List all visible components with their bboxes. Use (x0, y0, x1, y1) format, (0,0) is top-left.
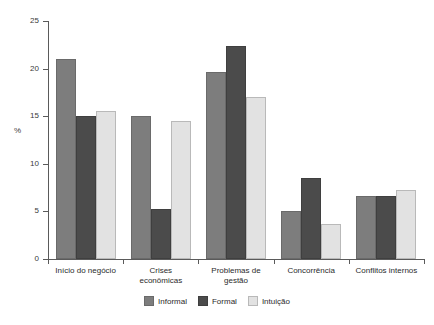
legend-label-formal: Formal (212, 297, 237, 306)
bar-formal (151, 209, 171, 259)
bar-intuicao (171, 121, 191, 259)
bar-informal (56, 59, 76, 259)
bar-formal (301, 178, 321, 259)
bar-formal (376, 196, 396, 259)
x-axis-line (48, 259, 424, 260)
y-axis-tick (43, 116, 49, 117)
legend-label-informal: Informal (158, 297, 187, 306)
y-axis-tick-label: 10 (9, 160, 39, 168)
y-axis-line (48, 21, 49, 259)
y-axis-tick (43, 164, 49, 165)
y-axis-tick-label: 0 (9, 255, 39, 263)
bar-intuicao (321, 224, 341, 259)
bar-informal (131, 116, 151, 259)
y-axis-tick-label: 5 (9, 207, 39, 215)
x-axis-tick (123, 259, 124, 264)
y-axis-unit-label: % (14, 126, 21, 135)
x-axis-tick (198, 259, 199, 264)
legend-swatch-intuicao (248, 296, 258, 306)
bar-formal (226, 46, 246, 259)
bar-formal (76, 116, 96, 259)
y-axis-tick (43, 69, 49, 70)
chart-legend: InformalFormalIntuição (0, 296, 434, 306)
y-axis-tick-label: 25 (9, 17, 39, 25)
legend-label-intuicao: Intuição (262, 297, 290, 306)
category-label-line: gestão (188, 276, 284, 286)
legend-swatch-formal (198, 296, 208, 306)
bar-informal (356, 196, 376, 259)
x-axis-tick (48, 259, 49, 264)
legend-swatch-informal (144, 296, 154, 306)
category-label-line: Conflitos internos (338, 266, 434, 276)
bar-informal (206, 72, 226, 259)
x-axis-category-label: Conflitos internos (338, 266, 434, 276)
bar-intuicao (396, 190, 416, 259)
y-axis-tick-label: 15 (9, 112, 39, 120)
legend-item-formal: Formal (198, 296, 237, 306)
x-axis-tick (424, 259, 425, 264)
y-axis-tick-label: 20 (9, 65, 39, 73)
bar-chart: % 0510152025 Início do negócioCrisesecon… (0, 0, 434, 325)
legend-item-informal: Informal (144, 296, 187, 306)
y-axis-tick (43, 21, 49, 22)
x-axis-tick (349, 259, 350, 264)
legend-item-intuicao: Intuição (248, 296, 290, 306)
bar-intuicao (246, 97, 266, 259)
x-axis-tick (274, 259, 275, 264)
bar-informal (281, 211, 301, 259)
y-axis-tick (43, 211, 49, 212)
bar-intuicao (96, 111, 116, 259)
